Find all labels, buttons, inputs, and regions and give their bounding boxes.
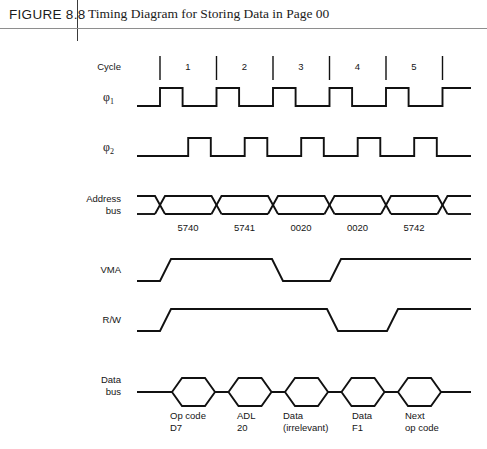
phi2-label: φ2 [103,140,114,156]
phi2-symbol: φ [103,140,110,154]
data-bus-label-line1: Data [53,374,121,386]
data-annotation-5-line2: op code [405,422,439,434]
address-value-2: 5741 [217,222,273,233]
waveform-rw [137,309,471,331]
data-annotation-2-line2: 20 [237,422,255,434]
timing-diagram: Cycle φ1 φ2 Address bus VMA R/W Data bus… [0,0,487,449]
waveform-phi1 [137,88,471,106]
cycle-number-3: 3 [281,61,321,72]
cycle-row-label: Cycle [63,61,121,72]
data-annotation-4-line1: Data [352,410,372,422]
cycle-number-4: 4 [338,61,378,72]
data-bus-label-line2: bus [53,386,121,398]
phi1-subscript: 1 [110,97,114,106]
waveform-phi2 [137,138,471,156]
data-annotation-2: ADL 20 [237,410,255,433]
data-annotation-5-line1: Next [405,410,439,422]
data-annotation-3-line2: (irrelevant) [283,422,328,434]
data-annotation-4: Data F1 [352,410,372,433]
rw-label: R/W [53,314,121,325]
phi1-label: φ1 [103,90,114,106]
waveform-address-bus [137,196,471,214]
data-annotation-3: Data (irrelevant) [283,410,328,433]
data-annotation-5: Next op code [405,410,439,433]
data-annotation-1-line1: Op code [170,410,206,422]
data-annotation-2-line1: ADL [237,410,255,422]
cycle-number-1: 1 [168,61,208,72]
vma-label: VMA [53,264,121,275]
phi2-subscript: 2 [110,147,114,156]
data-annotation-4-line2: F1 [352,422,372,434]
address-value-5: 5742 [386,222,442,233]
address-bus-label-line1: Address [53,193,121,205]
phi1-symbol: φ [103,90,110,104]
address-value-3: 0020 [273,222,329,233]
address-bus-label: Address bus [53,193,121,217]
data-annotation-3-line1: Data [283,410,328,422]
data-annotation-1-line2: D7 [170,422,206,434]
cycle-number-2: 2 [225,61,265,72]
address-value-4: 0020 [330,222,386,233]
waveform-data-bus [137,378,471,406]
data-bus-label: Data bus [53,374,121,398]
data-annotation-1: Op code D7 [170,410,206,433]
address-bus-label-line2: bus [53,205,121,217]
cycle-number-5: 5 [394,61,434,72]
address-value-1: 5740 [160,222,216,233]
waveform-vma [137,259,471,281]
